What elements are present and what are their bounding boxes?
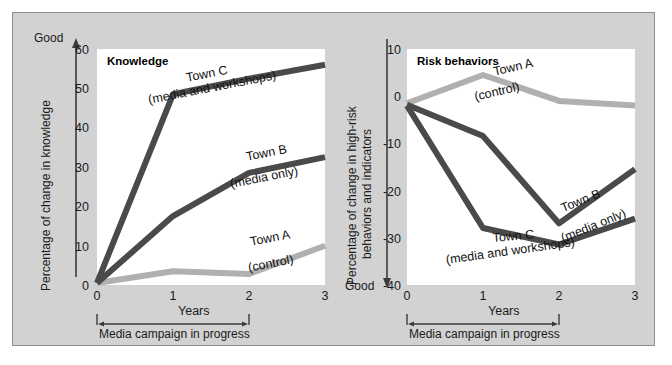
campaign-annotation-left: Media campaign in progress <box>99 327 250 341</box>
y-tick-30: 30 <box>57 161 89 175</box>
y-tick-neg20: -20 <box>369 185 401 199</box>
x-tick-1: 1 <box>158 289 188 303</box>
plot-area-right: Risk behaviors Town A (control) Town B (… <box>407 49 635 285</box>
x-tick-3: 3 <box>620 289 650 303</box>
y-axis-label-right-line1: Percentage of change in high-risk <box>345 106 359 285</box>
figure-panel: Percentage of change in knowledge Good 6… <box>12 12 655 346</box>
y-tick-60: 60 <box>57 43 89 57</box>
y-tick-50: 50 <box>57 82 89 96</box>
y-tick-10: 10 <box>57 240 89 254</box>
chart-knowledge: Percentage of change in knowledge Good 6… <box>13 13 343 347</box>
y-tick-0: 0 <box>369 90 401 104</box>
chart-risk-behaviors: Percentage of change in high-risk behavi… <box>331 13 656 347</box>
y-axis-label-left: Percentage of change in knowledge <box>39 100 53 291</box>
line-town-a <box>407 75 635 106</box>
good-arrow-down-icon <box>377 39 397 289</box>
y-tick-20: 20 <box>57 200 89 214</box>
x-tick-1: 1 <box>468 289 498 303</box>
x-tick-0: 0 <box>82 289 112 303</box>
plot-area-left: Knowledge Town C (media and workshops) T… <box>97 49 325 285</box>
y-tick-neg30: -30 <box>369 232 401 246</box>
x-tick-2: 2 <box>544 289 574 303</box>
y-tick-neg10: -10 <box>369 137 401 151</box>
y-tick-10: 10 <box>369 43 401 57</box>
x-tick-2: 2 <box>234 289 264 303</box>
campaign-annotation-right: Media campaign in progress <box>409 327 560 341</box>
x-tick-0: 0 <box>392 289 422 303</box>
y-tick-40: 40 <box>57 121 89 135</box>
